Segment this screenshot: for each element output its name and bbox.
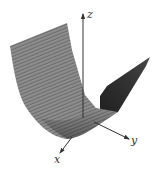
x-axis-label: x	[54, 153, 61, 166]
y-axis	[94, 122, 129, 139]
z-axis-label: z	[86, 8, 93, 21]
surface-right-flap	[100, 57, 150, 118]
x-axis	[60, 137, 72, 153]
y-axis-label: y	[130, 134, 138, 147]
parabolic-cylinder-diagram: z y x	[0, 0, 157, 177]
